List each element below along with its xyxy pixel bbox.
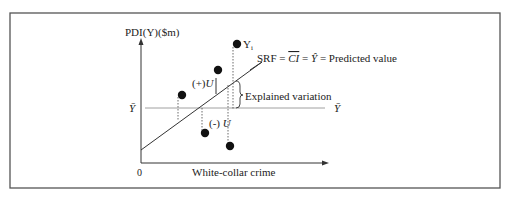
yi-label: Yi: [243, 38, 253, 52]
ybar-right-label: Ȳ: [334, 102, 342, 114]
data-point: [178, 91, 186, 99]
data-point: [214, 66, 222, 74]
y-axis-arrow-icon: [139, 38, 144, 45]
regression-diagram: PDI(Y)($m) White-collar crime 0 Ȳ Ȳ Yi S…: [0, 0, 507, 200]
negative-residual-label: (-) U: [209, 117, 232, 130]
explained-variation-brace: [236, 81, 243, 108]
data-point: [201, 129, 209, 137]
positive-residual-label: (+)U: [192, 77, 215, 90]
x-axis-label: White-collar crime: [192, 166, 275, 178]
data-points: [178, 40, 241, 150]
explained-variation-label: Explained variation: [245, 90, 332, 102]
data-point-yi: [233, 40, 241, 48]
srf-label: SRF = CI = Ŷ = Predicted value: [257, 52, 397, 64]
y-axis-label: PDI(Y)($m): [125, 26, 180, 39]
regression-line: [141, 62, 262, 150]
data-point: [226, 142, 234, 150]
ybar-left-label: Ȳ: [129, 102, 137, 114]
x-axis-arrow-icon: [322, 161, 329, 166]
origin-label: 0: [137, 167, 142, 178]
